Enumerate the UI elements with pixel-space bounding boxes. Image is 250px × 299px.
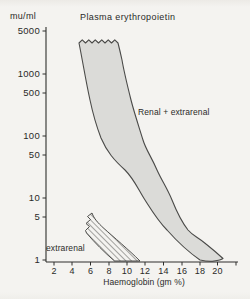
x-axis-tick-labels: 2 4 6 8 10 12 14 16 18 20: [51, 266, 222, 276]
y-tick-1: 1: [34, 254, 40, 265]
region-label-extrarenal: extrarenal: [46, 243, 85, 253]
x-tick-18: 18: [195, 266, 205, 276]
x-tick-2: 2: [51, 266, 56, 276]
y-tick-500: 500: [23, 87, 40, 98]
extrarenal-region: [86, 213, 141, 261]
chart-canvas: mu/ml Plasma erythropoietin 5000 1000 50…: [0, 0, 250, 299]
erythropoietin-figure: mu/ml Plasma erythropoietin 5000 1000 50…: [0, 0, 250, 299]
chart-title: Plasma erythropoietin: [80, 12, 175, 22]
x-tick-8: 8: [106, 266, 111, 276]
y-tick-1000: 1000: [18, 68, 40, 79]
y-tick-5: 5: [34, 211, 40, 222]
y-tick-10: 10: [29, 192, 40, 203]
x-tick-16: 16: [177, 266, 187, 276]
y-axis-unit-label: mu/ml: [10, 11, 36, 21]
x-tick-4: 4: [69, 266, 74, 276]
y-tick-5000: 5000: [18, 25, 40, 36]
x-tick-20: 20: [212, 266, 222, 276]
y-tick-50: 50: [29, 149, 40, 160]
region-label-renal-extrarenal: Renal + extrarenal: [138, 107, 210, 117]
x-tick-6: 6: [88, 266, 93, 276]
y-axis-tick-labels: 5000 1000 500 100 50 10 5 1: [18, 25, 40, 265]
y-tick-100: 100: [23, 130, 40, 141]
x-tick-12: 12: [140, 266, 150, 276]
x-tick-14: 14: [158, 266, 168, 276]
x-tick-10: 10: [122, 266, 132, 276]
x-axis-label: Haemoglobin (gm %): [103, 277, 185, 287]
